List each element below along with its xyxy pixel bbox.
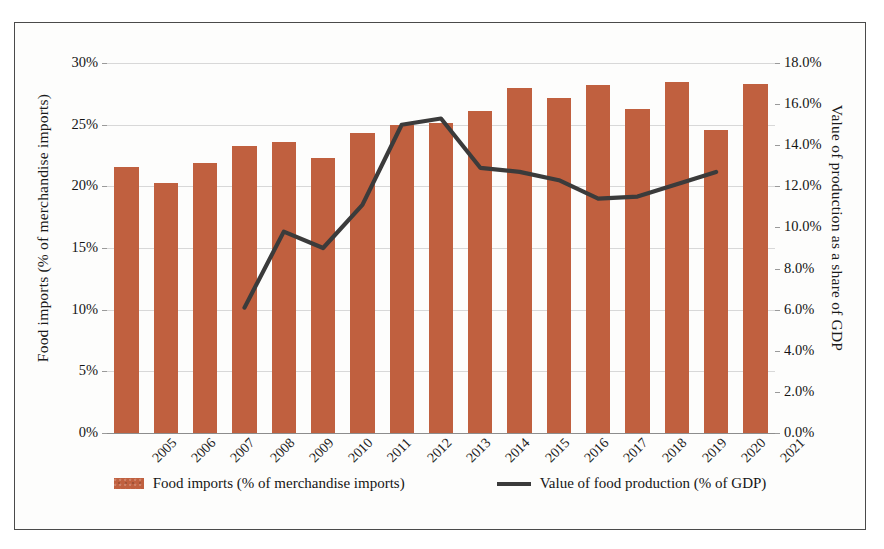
x-axis-tick-label-2018: 2018: [660, 435, 691, 466]
y-axis-left-tick-label: 5%: [79, 362, 98, 379]
legend-label-food-production: Value of food production (% of GDP): [540, 475, 767, 492]
x-axis-tick-label-2012: 2012: [424, 435, 455, 466]
x-axis-tick-label-2007: 2007: [227, 435, 258, 466]
y-axis-left-tick-label: 25%: [71, 116, 98, 133]
y-axis-right-title: Value of production as a share of GDP: [828, 58, 846, 398]
x-axis-tick-label-2011: 2011: [384, 435, 415, 466]
y-axis-right-tick-label: 16.0%: [784, 95, 821, 112]
y-axis-right-tick-label: 12.0%: [784, 177, 821, 194]
line-swatch-icon: [497, 482, 531, 486]
y-axis-right-tick-label: 8.0%: [784, 260, 814, 277]
x-axis-tick-label-2008: 2008: [267, 435, 298, 466]
y-axis-left-title: Food imports (% of merchandise imports): [34, 58, 52, 398]
legend-entry-food-production: Value of food production (% of GDP): [497, 475, 767, 492]
y-axis-right-tick-label: 6.0%: [784, 301, 814, 318]
tick-mark: [775, 104, 780, 105]
y-axis-left-tick-label: 30%: [71, 54, 98, 71]
x-axis-tick-label-2017: 2017: [620, 435, 651, 466]
plot-area: 0%5%10%15%20%25%30% 0.0%2.0%4.0%6.0%8.0%…: [107, 63, 775, 433]
tick-mark: [775, 227, 780, 228]
y-axis-right-tick-label: 18.0%: [784, 54, 821, 71]
y-axis-right-tick-label: 2.0%: [784, 383, 814, 400]
y-axis-left-tick-label: 15%: [71, 239, 98, 256]
y-axis-left-tick-label: 20%: [71, 177, 98, 194]
tick-mark: [775, 351, 780, 352]
chart-figure: Food imports (% of merchandise imports) …: [14, 22, 866, 530]
tick-mark: [102, 433, 107, 434]
tick-mark: [775, 145, 780, 146]
y-axis-left-tick-label: 0%: [79, 424, 98, 441]
legend-label-food-imports: Food imports (% of merchandise imports): [153, 475, 405, 492]
chart-legend: Food imports (% of merchandise imports) …: [15, 475, 865, 492]
tick-mark: [775, 310, 780, 311]
tick-mark: [775, 63, 780, 64]
y-axis-right-tick-label: 10.0%: [784, 218, 821, 235]
line-series: [107, 63, 775, 433]
line-path: [245, 119, 717, 308]
tick-mark: [775, 433, 780, 434]
tick-mark: [775, 186, 780, 187]
x-axis-tick-label-2015: 2015: [542, 435, 573, 466]
x-axis-tick-label-2014: 2014: [502, 435, 533, 466]
x-axis-tick-label-2016: 2016: [581, 435, 612, 466]
x-axis-tick-label-2010: 2010: [345, 435, 376, 466]
tick-mark: [775, 269, 780, 270]
x-axis-tick-label-2019: 2019: [699, 435, 730, 466]
legend-entry-food-imports: Food imports (% of merchandise imports): [114, 475, 405, 492]
y-axis-right-tick-label: 4.0%: [784, 342, 814, 359]
y-axis-left-tick-label: 10%: [71, 301, 98, 318]
tick-mark: [775, 392, 780, 393]
x-axis-tick-label-2006: 2006: [188, 435, 219, 466]
y-axis-right-tick-label: 14.0%: [784, 136, 821, 153]
x-axis-tick-label-2005: 2005: [149, 435, 180, 466]
bar-swatch-icon: [114, 478, 144, 489]
x-axis-tick-label-2009: 2009: [306, 435, 337, 466]
x-axis-tick-label-2013: 2013: [463, 435, 494, 466]
x-axis-tick-label-2020: 2020: [738, 435, 769, 466]
